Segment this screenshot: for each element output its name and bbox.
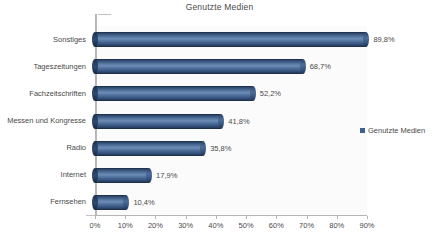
bar-cap-left [92, 32, 98, 47]
bar-cap-left [92, 141, 98, 156]
bar[interactable] [95, 114, 221, 129]
x-tick-label: 20% [148, 221, 163, 230]
bar-cap-left [92, 114, 98, 129]
x-tick-label: 40% [208, 221, 223, 230]
x-tick-label: 80% [329, 221, 344, 230]
x-tick-mark [276, 216, 277, 219]
legend-label: Genutzte Medien [368, 126, 425, 135]
x-tick-label: 90% [359, 221, 374, 230]
bar-row: 52,2% [95, 81, 281, 107]
category-label: Internet [61, 162, 86, 188]
bar-cap-left [92, 195, 98, 210]
chart-container: Genutzte Medien SonstigesTageszeitungenF… [0, 0, 439, 250]
bar-value-label: 10,4% [133, 198, 154, 207]
x-tick-mark [155, 216, 156, 219]
bar-cap-left [92, 59, 98, 74]
legend-swatch-icon [360, 128, 365, 133]
category-axis-labels: SonstigesTageszeitungenFachzeitschriften… [0, 26, 90, 216]
chart-title: Genutzte Medien [0, 2, 439, 12]
bar-value-label: 89,8% [373, 35, 394, 44]
bar-cap-left [92, 168, 98, 183]
bar-cap-right [250, 86, 256, 101]
x-tick-mark [216, 216, 217, 219]
bar[interactable] [95, 86, 253, 101]
bar-row: 68,7% [95, 54, 331, 80]
bar-value-label: 41,8% [228, 117, 249, 126]
plot-area: 89,8%68,7%52,2%41,8%35,8%17,9%10,4% [95, 26, 367, 216]
bar-row: 35,8% [95, 135, 231, 161]
x-tick-mark [337, 216, 338, 219]
bar[interactable] [95, 168, 149, 183]
bar-cap-right [363, 32, 369, 47]
x-tick-mark [246, 216, 247, 219]
category-label: Fachzeitschriften [29, 81, 86, 107]
bar-row: 89,8% [95, 27, 395, 53]
bar-value-label: 35,8% [210, 144, 231, 153]
bar-value-label: 52,2% [260, 89, 281, 98]
bar-cap-right [146, 168, 152, 183]
x-tick-label: 50% [239, 221, 254, 230]
x-tick-mark [125, 216, 126, 219]
x-tick-mark [367, 216, 368, 219]
x-tick-label: 10% [118, 221, 133, 230]
x-tick-label: 60% [269, 221, 284, 230]
bar-cap-right [218, 114, 224, 129]
bar-cap-right [300, 59, 306, 74]
x-tick-label: 0% [90, 221, 101, 230]
x-tick-mark [307, 216, 308, 219]
category-label: Fernsehen [50, 189, 86, 215]
category-label: Tageszeitungen [33, 54, 86, 80]
bar[interactable] [95, 141, 203, 156]
bar-cap-right [200, 141, 206, 156]
category-label: Messen und Kongresse [7, 108, 86, 134]
bar-row: 10,4% [95, 189, 155, 215]
bar-rows: 89,8%68,7%52,2%41,8%35,8%17,9%10,4% [95, 26, 367, 216]
x-axis-ticks: 0%10%20%30%40%50%60%70%80%90% [95, 216, 367, 238]
bar-cap-left [92, 86, 98, 101]
category-label: Sonstiges [53, 27, 86, 53]
x-tick-label: 70% [299, 221, 314, 230]
x-tick-mark [186, 216, 187, 219]
bar[interactable] [95, 32, 366, 47]
bar-value-label: 68,7% [310, 62, 331, 71]
category-label: Radio [66, 135, 86, 161]
bar[interactable] [95, 195, 126, 210]
bar-cap-right [123, 195, 129, 210]
chart-legend: Genutzte Medien [360, 126, 425, 135]
bar-row: 41,8% [95, 108, 250, 134]
bar[interactable] [95, 59, 303, 74]
x-tick-mark [95, 216, 96, 219]
x-tick-label: 30% [178, 221, 193, 230]
bar-row: 17,9% [95, 162, 177, 188]
bar-value-label: 17,9% [156, 171, 177, 180]
